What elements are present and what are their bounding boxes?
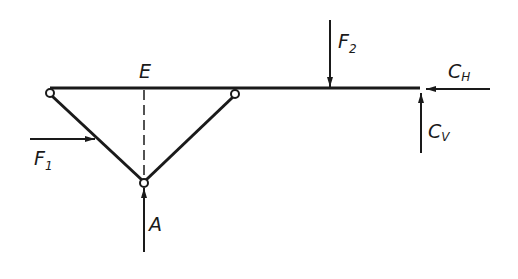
label-cv-main: C	[428, 120, 442, 142]
label-f1-sub: 1	[45, 159, 53, 173]
label-ch: CH	[448, 60, 470, 84]
label-cv: CV	[428, 120, 450, 144]
label-ch-main: C	[448, 60, 462, 82]
label-e: E	[139, 60, 151, 82]
free-body-diagram: E F1 F2 CH CV A	[0, 0, 518, 279]
right-pin	[231, 90, 239, 98]
left-pin	[46, 89, 54, 97]
label-f2-sub: 2	[349, 42, 357, 56]
label-a: A	[147, 213, 162, 235]
label-f1: F1	[34, 147, 53, 173]
label-cv-sub: V	[441, 130, 450, 144]
bottom-pin	[140, 179, 148, 187]
label-ch-sub: H	[461, 70, 470, 84]
label-f2: F2	[338, 30, 357, 56]
right-strut	[146, 97, 233, 180]
